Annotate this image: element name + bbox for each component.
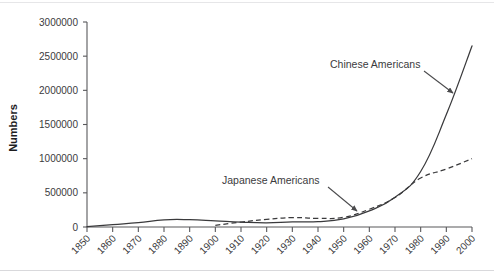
x-axis-tick-label: 1960 [351, 232, 375, 256]
x-axis-tick-label: 1870 [120, 232, 144, 256]
chart-figure: Numbers 05000001000000150000020000002500… [0, 0, 494, 279]
x-axis-tick-label: 1850 [69, 232, 93, 256]
x-axis-tick-label: 1860 [95, 232, 119, 256]
y-axis-tick-label: 500000 [45, 187, 79, 198]
y-axis-tick-label: 1000000 [39, 153, 78, 164]
x-axis-tick-label: 1920 [249, 232, 273, 256]
y-axis-tick-label: 2000000 [39, 85, 78, 96]
y-axis-tick-label: 0 [72, 222, 78, 233]
x-axis-tick-label: 1930 [274, 232, 298, 256]
chinese-americans-annotation-label: Chinese Americans [330, 58, 420, 70]
series-line-chinese-americans [87, 46, 472, 227]
japanese-americans-annotation-label: Japanese Americans [222, 174, 319, 186]
top-divider [0, 2, 494, 3]
x-axis-tick-label: 1970 [377, 232, 401, 256]
y-axis-title: Numbers [7, 104, 19, 152]
x-axis-tick-label: 1980 [403, 232, 427, 256]
x-axis-ticks: 1850186018701880189019001910192019301940… [69, 227, 478, 256]
y-axis-tick-label: 1500000 [39, 119, 78, 130]
x-axis-tick-label: 1900 [197, 232, 221, 256]
x-axis-tick-label: 1910 [223, 232, 247, 256]
annotation-group: Chinese AmericansJapanese Americans [222, 58, 453, 211]
x-axis-tick-label: 1890 [172, 232, 196, 256]
japanese-americans-annotation-arrow [328, 187, 357, 211]
x-axis-tick-label: 1940 [300, 232, 324, 256]
line-chart-svg: Numbers 05000001000000150000020000002500… [0, 0, 494, 279]
bottom-divider [0, 270, 494, 271]
x-axis-tick-label: 1950 [326, 232, 350, 256]
y-axis-ticks: 0500000100000015000002000000250000030000… [39, 17, 87, 233]
x-axis-tick-label: 1990 [428, 232, 452, 256]
series-line-japanese-americans [215, 159, 472, 226]
y-axis-tick-label: 2500000 [39, 51, 78, 62]
x-axis-tick-label: 2000 [454, 232, 478, 256]
chinese-americans-annotation-arrow [424, 71, 453, 93]
x-axis-tick-label: 1880 [146, 232, 170, 256]
y-axis-tick-label: 3000000 [39, 17, 78, 28]
